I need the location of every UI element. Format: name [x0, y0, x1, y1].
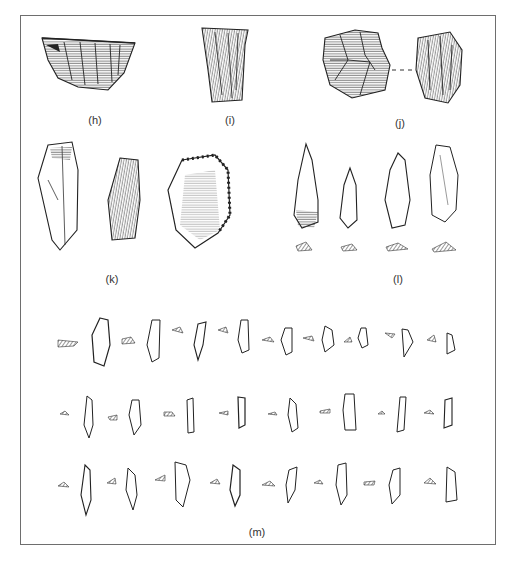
- artifact-k-scraper: [168, 155, 230, 248]
- artifact-k-blade-1: [38, 142, 78, 250]
- artifact-h-core: [42, 38, 135, 90]
- artifact-k-blade-2: [108, 158, 140, 240]
- artifact-j-core-face: [323, 30, 390, 98]
- microlith-row-1: [58, 318, 455, 366]
- artifact-l-point-2: [340, 168, 357, 251]
- panel-label-l: (l): [393, 273, 403, 285]
- panel-label-i: (i): [225, 114, 235, 126]
- artifact-l-blade-4: [430, 145, 458, 252]
- artifact-i-core: [202, 28, 248, 102]
- panel-label-k: (k): [106, 273, 119, 285]
- lithic-illustrations: [0, 0, 511, 565]
- panel-label-h: (h): [88, 114, 101, 126]
- artifact-j-core-side: [416, 32, 462, 103]
- microlith-row-3: [58, 462, 457, 515]
- artifact-l-blade-3: [385, 153, 410, 251]
- panel-label-j: (j): [395, 117, 405, 129]
- microlith-row-2: [60, 394, 452, 438]
- panel-label-m: (m): [249, 526, 266, 538]
- artifact-l-point-1: [294, 144, 318, 251]
